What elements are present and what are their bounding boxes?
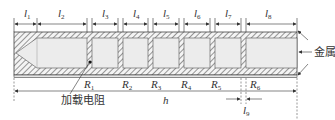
cavity-6 xyxy=(215,38,241,68)
label-R4: R4 xyxy=(180,78,192,92)
label-R3: R3 xyxy=(150,78,162,92)
label-R2: R2 xyxy=(121,78,133,92)
cavity-2 xyxy=(92,38,118,68)
label-l8: l8 xyxy=(265,7,272,21)
cavity-7 xyxy=(246,38,297,68)
label-l7: l7 xyxy=(225,7,232,21)
resistor-labels: R1 R2 R3 R4 R5 R6 xyxy=(83,78,261,92)
antenna-cross-section-diagram: l1 l2 l3 l4 l5 l6 l7 l8 金属 R1 R2 R3 R4 R… xyxy=(0,0,335,120)
cavity-4 xyxy=(153,38,179,68)
l9-label: l9 xyxy=(243,104,250,118)
h-label: h xyxy=(163,94,169,106)
metal-label: 金属 xyxy=(314,45,335,59)
cavity-5 xyxy=(184,38,210,68)
label-R5: R5 xyxy=(210,78,222,92)
cavity-3 xyxy=(123,38,148,68)
metal-callout: 金属 xyxy=(298,31,335,75)
label-l4: l4 xyxy=(133,7,140,21)
top-dimension-lines xyxy=(14,18,297,32)
label-l1: l1 xyxy=(24,7,31,21)
label-l6: l6 xyxy=(194,7,201,21)
label-R1: R1 xyxy=(83,78,95,92)
label-l3: l3 xyxy=(102,7,109,21)
label-R6: R6 xyxy=(249,78,261,92)
load-resistor-label: 加载电阻 xyxy=(61,94,105,107)
cavities xyxy=(16,38,297,68)
label-l2: l2 xyxy=(58,7,65,21)
label-l5: l5 xyxy=(163,7,170,21)
